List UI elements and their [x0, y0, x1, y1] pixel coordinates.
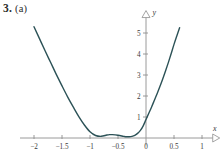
x-tick-label: 1	[200, 143, 204, 151]
x-tick-label: 0.5	[170, 143, 179, 151]
y-axis-arrowhead	[142, 11, 150, 18]
function-curve	[34, 27, 180, 137]
y-tick-label: 4	[137, 51, 141, 59]
x-axis-name: x	[212, 124, 217, 133]
y-axis-name: y	[152, 8, 157, 17]
coordinate-plot: −2−1.5−1−0.500.51 12345 xy	[0, 0, 220, 157]
y-tick-label: 2	[137, 93, 141, 101]
x-tick-label: −1.5	[55, 143, 68, 151]
y-tick-label: 1	[137, 114, 141, 122]
x-axis-tick-labels: −2−1.5−1−0.500.51	[30, 143, 204, 151]
x-tick-label: −0.5	[111, 143, 124, 151]
axes-group	[20, 11, 220, 146]
x-tick-label: −1	[86, 143, 94, 151]
curve-group	[34, 27, 180, 137]
axis-name-labels: xy	[152, 8, 217, 133]
x-tick-label: 0	[144, 143, 148, 151]
x-tick-label: −2	[30, 143, 38, 151]
x-axis-arrowhead	[213, 134, 220, 142]
y-axis-tick-labels: 12345	[137, 30, 141, 122]
y-tick-label: 5	[137, 30, 141, 38]
y-tick-label: 3	[137, 72, 141, 80]
figure-container: 3. (a) −2−1.5−1−0.500.51 12345 xy	[0, 0, 220, 157]
